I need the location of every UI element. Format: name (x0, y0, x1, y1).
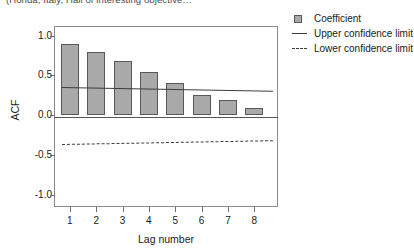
bar (87, 52, 105, 115)
x-tick-label: 7 (218, 215, 238, 226)
bar (245, 108, 263, 115)
x-axis-title: Lag number (54, 233, 278, 245)
y-tick-label: 1.0 (8, 31, 52, 41)
y-axis: 1.00.50.0-0.5-1.0 (0, 0, 52, 252)
x-tick-label: 2 (86, 215, 106, 226)
x-tick-mark (254, 207, 255, 212)
y-tick-mark (50, 115, 55, 116)
x-tick-label: 1 (60, 215, 80, 226)
y-tick-label: 0.5 (8, 70, 52, 80)
solid-line-icon (292, 27, 312, 41)
y-tick-label: -0.5 (8, 150, 52, 160)
x-tick-mark (149, 207, 150, 212)
x-tick-mark (70, 207, 71, 212)
coefficient-swatch-icon (292, 12, 312, 26)
y-tick-mark (50, 36, 55, 37)
y-tick-mark (50, 75, 55, 76)
bar (193, 95, 211, 115)
x-tick-label: 4 (139, 215, 159, 226)
bar (140, 72, 158, 115)
bar (219, 100, 237, 115)
legend: Coefficient Upper confidence limit Lower… (292, 12, 412, 57)
x-tick-label: 5 (165, 215, 185, 226)
x-tick-mark (96, 207, 97, 212)
x-tick-mark (175, 207, 176, 212)
y-axis-title: ACF (9, 85, 21, 135)
x-tick-label: 3 (113, 215, 133, 226)
x-tick-mark (123, 207, 124, 212)
acf-chart-figure: (Honda, Italy, Hall of interesting objec… (0, 0, 414, 252)
x-tick-label: 6 (192, 215, 212, 226)
x-tick-mark (228, 207, 229, 212)
legend-label: Upper confidence limit (314, 28, 413, 39)
legend-label: Coefficient (314, 13, 361, 24)
legend-item-lower-confidence-limit: Lower confidence limit (292, 42, 412, 56)
dashed-line-icon (292, 42, 312, 56)
legend-label: Lower confidence limit (314, 43, 413, 54)
zero-reference-line (54, 117, 278, 118)
x-tick-mark (202, 207, 203, 212)
legend-item-upper-confidence-limit: Upper confidence limit (292, 27, 412, 41)
x-tick-label: 8 (244, 215, 264, 226)
y-tick-label: -1.0 (8, 190, 52, 200)
y-tick-mark (50, 155, 55, 156)
legend-item-coefficient: Coefficient (292, 12, 412, 26)
bar (61, 44, 79, 116)
y-tick-mark (50, 195, 55, 196)
